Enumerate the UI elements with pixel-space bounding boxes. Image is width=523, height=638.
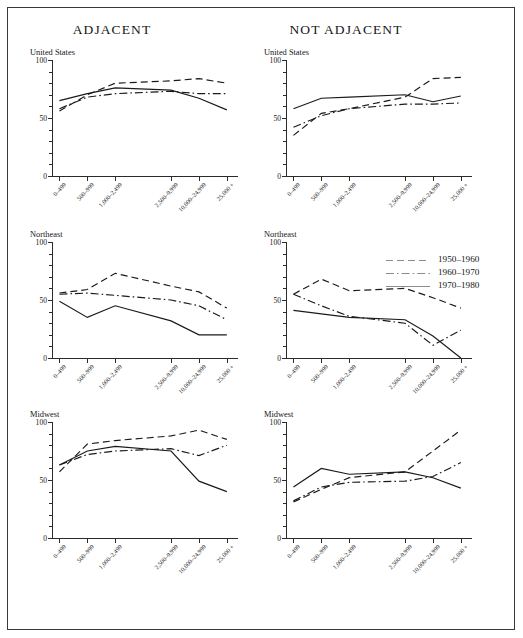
x-tick-4 (433, 539, 434, 543)
y-tick-label-50: 50 (259, 114, 281, 123)
x-tick-1 (87, 359, 88, 363)
x-tick-0 (293, 359, 294, 363)
legend-label: 1960–1970 (438, 267, 479, 277)
series-layer (286, 60, 472, 176)
y-tick-0 (282, 176, 287, 177)
series-line-1950-1960 (293, 279, 460, 308)
x-tick-3 (171, 177, 172, 181)
x-tick-label-3: 2,500–9,999 (387, 181, 413, 208)
legend-line-sample (386, 286, 430, 287)
y-tick-label-50: 50 (25, 476, 47, 485)
series-line-1960-1970 (293, 463, 460, 501)
x-axis-line (286, 538, 472, 539)
y-tick-label-50: 50 (25, 296, 47, 305)
plot-area: 0501000–499500–9991,000–2,4992,500–9,999… (286, 422, 472, 538)
x-tick-0 (59, 177, 60, 181)
series-line-1950-1960 (59, 430, 226, 472)
x-tick-label-3: 2,500–9,999 (387, 543, 413, 570)
x-tick-label-1: 500–999 (76, 363, 96, 384)
x-tick-label-2: 1,000–2,499 (331, 363, 357, 390)
plot-area: 0501000–499500–9991,000–2,4992,500–9,999… (52, 242, 238, 358)
x-tick-5 (461, 359, 462, 363)
x-tick-2 (115, 359, 116, 363)
x-tick-label-0: 0–499 (52, 181, 68, 197)
series-layer (52, 422, 238, 538)
x-tick-label-4: 10,000–24,999 (411, 543, 441, 575)
x-tick-label-0: 0–499 (52, 543, 68, 559)
x-tick-0 (293, 539, 294, 543)
x-tick-label-5: 25,000 + (215, 181, 235, 202)
y-tick-label-100: 100 (25, 238, 47, 247)
x-tick-label-3: 2,500–9,999 (153, 543, 179, 570)
x-axis-line (286, 358, 472, 359)
x-tick-1 (87, 177, 88, 181)
x-tick-2 (115, 177, 116, 181)
series-line-1970-1980 (59, 301, 226, 335)
x-tick-4 (433, 177, 434, 181)
x-tick-label-4: 10,000–24,999 (411, 363, 441, 395)
x-tick-5 (461, 177, 462, 181)
y-tick-label-100: 100 (259, 56, 281, 65)
x-axis-line (286, 176, 472, 177)
x-tick-label-0: 0–499 (286, 543, 302, 559)
x-axis-line (52, 176, 238, 177)
x-tick-0 (59, 539, 60, 543)
x-tick-4 (199, 359, 200, 363)
y-tick-label-0: 0 (259, 534, 281, 543)
x-tick-5 (461, 539, 462, 543)
x-tick-label-3: 2,500–9,999 (153, 181, 179, 208)
series-line-1970-1980 (293, 468, 460, 488)
x-tick-0 (59, 359, 60, 363)
x-tick-3 (171, 539, 172, 543)
legend-label: 1970–1980 (438, 280, 479, 290)
x-tick-2 (349, 177, 350, 181)
x-tick-4 (433, 359, 434, 363)
y-tick-label-50: 50 (259, 476, 281, 485)
series-line-1960-1970 (293, 103, 460, 127)
series-layer (52, 60, 238, 176)
figure-frame: ADJACENT NOT ADJACENT United States05010… (7, 7, 515, 630)
x-axis-line (52, 358, 238, 359)
series-layer (286, 422, 472, 538)
x-tick-5 (227, 177, 228, 181)
plot-area: 0501000–499500–9991,000–2,4992,500–9,999… (52, 422, 238, 538)
x-tick-3 (405, 539, 406, 543)
series-line-1970-1980 (59, 446, 226, 491)
x-tick-label-2: 1,000–2,499 (331, 543, 357, 570)
x-tick-1 (321, 359, 322, 363)
chart-panel-1: United States0501000–499500–9991,000–2,4… (30, 48, 256, 214)
x-tick-label-0: 0–499 (286, 181, 302, 197)
chart-panel-2: United States0501000–499500–9991,000–2,4… (264, 48, 490, 214)
x-tick-label-0: 0–499 (52, 363, 68, 379)
y-tick-0 (48, 538, 53, 539)
x-tick-label-4: 10,000–24,999 (177, 363, 207, 395)
x-tick-1 (321, 539, 322, 543)
x-tick-label-1: 500–999 (310, 181, 330, 202)
plot-area: 0501000–499500–9991,000–2,4992,500–9,999… (286, 60, 472, 176)
series-line-1950-1960 (293, 77, 460, 135)
chart-panel-3: Northeast0501000–499500–9991,000–2,4992,… (30, 230, 256, 396)
x-tick-label-2: 1,000–2,499 (331, 181, 357, 208)
y-tick-label-0: 0 (259, 172, 281, 181)
plot-area: 0501000–499500–9991,000–2,4992,500–9,999… (52, 60, 238, 176)
x-tick-label-4: 10,000–24,999 (177, 181, 207, 213)
x-tick-label-0: 0–499 (286, 363, 302, 379)
y-tick-label-0: 0 (25, 534, 47, 543)
x-tick-label-4: 10,000–24,999 (177, 543, 207, 575)
x-tick-label-1: 500–999 (310, 543, 330, 564)
x-tick-label-2: 1,000–2,499 (97, 363, 123, 390)
y-tick-label-100: 100 (259, 418, 281, 427)
x-tick-4 (199, 177, 200, 181)
x-tick-2 (115, 539, 116, 543)
chart-panel-6: Midwest0501000–499500–9991,000–2,4992,50… (264, 410, 490, 576)
x-tick-label-2: 1,000–2,499 (97, 181, 123, 208)
y-tick-0 (48, 358, 53, 359)
x-tick-label-5: 25,000 + (449, 543, 469, 564)
x-tick-label-1: 500–999 (310, 363, 330, 384)
series-line-1970-1980 (293, 310, 460, 358)
x-tick-label-5: 25,000 + (215, 543, 235, 564)
x-tick-label-1: 500–999 (76, 181, 96, 202)
y-tick-label-50: 50 (25, 114, 47, 123)
x-tick-label-3: 2,500–9,999 (153, 363, 179, 390)
series-layer (52, 242, 238, 358)
